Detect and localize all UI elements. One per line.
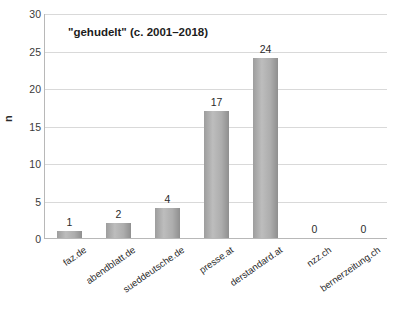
bar-value-label: 0 [295,223,335,235]
y-tick-label: 0 [3,233,41,245]
gridline [45,52,387,53]
bar-chart: n 051015202530 124172400 faz.deabendblat… [0,0,407,319]
bar-value-label: 2 [99,208,139,220]
bar [106,223,131,238]
bar-value-label: 1 [50,216,90,228]
plot-area: 051015202530 124172400 faz.deabendblatt.… [44,14,387,239]
chart-title: "gehudelt" (c. 2001–2018) [68,26,208,38]
y-tick-label: 10 [3,158,41,170]
y-tick-label: 15 [3,121,41,133]
bar [57,231,82,239]
y-tick-label: 5 [3,196,41,208]
y-tick-label: 20 [3,83,41,95]
gridline [45,89,387,90]
bar-value-label: 24 [246,43,286,55]
y-tick-label: 25 [3,46,41,58]
bar [204,111,229,239]
y-tick-label: 30 [3,8,41,20]
bar-value-label: 0 [344,223,384,235]
gridline [45,14,387,15]
bar-value-label: 17 [197,96,237,108]
bar [253,58,278,238]
bar [155,208,180,238]
bar-value-label: 4 [148,193,188,205]
